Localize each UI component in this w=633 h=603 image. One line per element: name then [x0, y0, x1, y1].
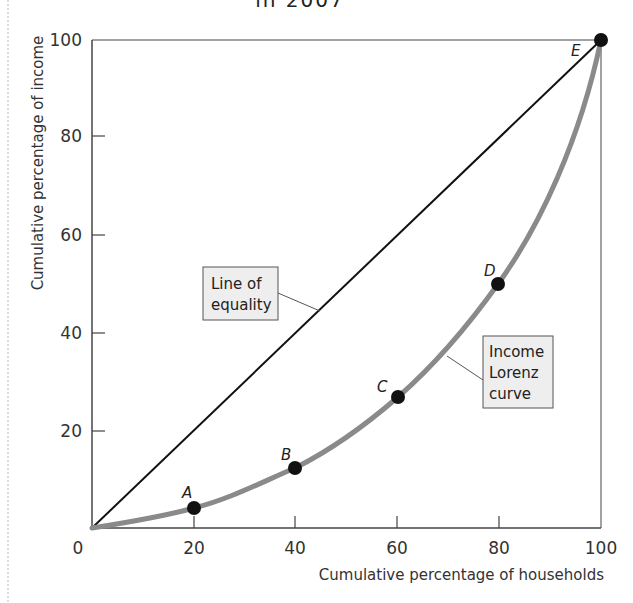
line-of-equality: [92, 40, 601, 528]
y-tick-label: 100: [50, 30, 82, 50]
y-tick-label: 60: [60, 225, 82, 245]
lorenz-label-line2: Lorenz: [489, 364, 539, 382]
equality-label-line1: Line of: [211, 275, 262, 293]
x-tick-label: 60: [386, 538, 408, 558]
lorenz-label-line3: curve: [489, 385, 531, 403]
point-a-label: A: [181, 484, 192, 502]
y-axis-title: Cumulative percentage of income: [29, 36, 47, 291]
x-tick-label: 40: [284, 538, 306, 558]
y-ticks: [92, 136, 105, 431]
point-e-label: E: [571, 42, 581, 60]
y-tick-label: 80: [60, 126, 82, 146]
lorenz-label-line1: Income: [489, 343, 544, 361]
x-tick-label: 80: [488, 538, 510, 558]
lorenz-chart: 20 40 60 80 100 0 20 40 60 80 100 Cumula…: [0, 0, 633, 603]
point-b-label: B: [281, 446, 291, 464]
point-e-marker: [594, 33, 608, 47]
point-c-label: C: [377, 378, 388, 396]
point-c-marker: [391, 390, 405, 404]
x-axis-title: Cumulative percentage of households: [319, 566, 604, 584]
y-tick-label: 20: [60, 421, 82, 441]
point-d-label: D: [484, 262, 496, 280]
x-tick-label: 20: [183, 538, 205, 558]
origin-label: 0: [73, 538, 84, 558]
x-ticks: [194, 516, 499, 528]
y-tick-label: 40: [60, 323, 82, 343]
point-a-marker: [187, 501, 201, 515]
lorenz-leader-line: [447, 356, 483, 380]
equality-leader-line: [278, 293, 320, 311]
equality-label-line2: equality: [211, 296, 272, 314]
x-tick-label: 100: [585, 538, 617, 558]
